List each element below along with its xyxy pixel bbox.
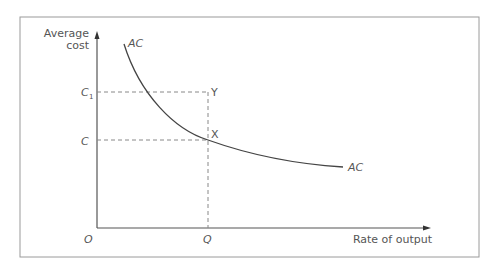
x-axis-arrow-icon bbox=[423, 226, 431, 231]
point-y-label: Y bbox=[210, 86, 218, 99]
q-label: Q bbox=[203, 233, 212, 246]
y-axis-arrow-icon bbox=[95, 31, 100, 39]
x-axis-label: Rate of output bbox=[353, 233, 433, 246]
ac-label-end: AC bbox=[347, 161, 364, 174]
diagram-frame bbox=[20, 17, 479, 257]
point-x-label: X bbox=[211, 128, 219, 141]
c-label: C bbox=[81, 135, 89, 148]
y-axis-label-line2: cost bbox=[66, 39, 90, 52]
diagram-canvas: Average cost AC AC C 1 C Y X O Q Rate of… bbox=[0, 0, 497, 270]
c1-subscript: 1 bbox=[89, 93, 93, 101]
c1-label: C bbox=[81, 86, 89, 99]
origin-label: O bbox=[84, 233, 93, 246]
ac-curve bbox=[124, 44, 343, 167]
ac-label-top: AC bbox=[127, 37, 144, 50]
